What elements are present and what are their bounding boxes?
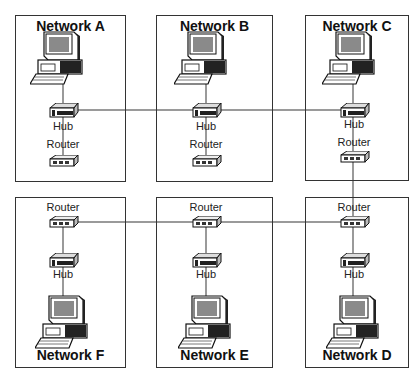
computer-icon [326, 294, 380, 350]
computer-icon [35, 294, 89, 350]
network-b-router-label: Router [176, 138, 236, 150]
network-c-hub-label: Hub [324, 118, 384, 130]
hub-icon [339, 103, 371, 119]
network-f-hub-label: Hub [33, 268, 93, 280]
router-icon [191, 155, 223, 169]
computer-icon [178, 294, 232, 350]
network-a-hub-label: Hub [33, 120, 93, 132]
network-f-router-label: Router [33, 201, 93, 213]
computer-icon [174, 30, 228, 86]
computer-icon [30, 30, 84, 86]
network-c-router-label: Router [324, 136, 384, 148]
network-b-hub-label: Hub [176, 120, 236, 132]
network-a-router-label: Router [33, 138, 93, 150]
hub-icon [191, 253, 223, 269]
network-e-router-label: Router [176, 201, 236, 213]
router-icon [339, 151, 371, 165]
hub-icon [48, 103, 80, 119]
hub-icon [191, 103, 223, 119]
hub-icon [339, 253, 371, 269]
router-icon [339, 216, 371, 230]
computer-icon [322, 30, 376, 86]
network-d-hub-label: Hub [324, 268, 384, 280]
hub-icon [48, 253, 80, 269]
router-icon [48, 155, 80, 169]
network-e-hub-label: Hub [176, 268, 236, 280]
router-icon [191, 216, 223, 230]
router-icon [48, 216, 80, 230]
network-d-router-label: Router [324, 201, 384, 213]
